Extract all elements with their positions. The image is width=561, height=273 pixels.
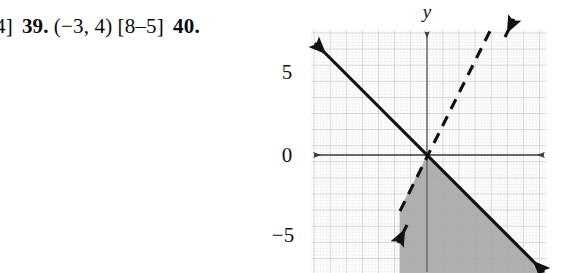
clipped-reference-fragment: 4] [0, 14, 13, 39]
graph-canvas: 5 0 −5 y [265, 0, 561, 273]
coordinate-graph: 5 0 −5 y [265, 0, 561, 273]
exercise-reference-39: [8–5] [118, 14, 165, 39]
y-tick-label-neg5: −5 [272, 223, 294, 247]
y-tick-label-0: 0 [282, 143, 293, 167]
exercise-number-39: 39. [22, 14, 49, 39]
answer-key-line: 4]39.(−3, 4)[8–5]40. [0, 14, 285, 48]
y-tick-label-5: 5 [282, 60, 293, 84]
exercise-answer-39: (−3, 4) [54, 14, 113, 39]
page-root: 4]39.(−3, 4)[8–5]40. [0, 0, 561, 273]
exercise-number-40: 40. [173, 14, 200, 39]
y-axis-name: y [421, 1, 432, 22]
